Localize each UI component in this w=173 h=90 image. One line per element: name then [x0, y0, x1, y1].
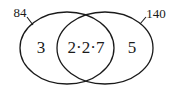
- set-label-left: 84: [14, 5, 28, 20]
- set-label-right: 140: [146, 6, 166, 21]
- region-intersection: 2·2·7: [68, 38, 105, 57]
- venn-diagram: 84 140 3 2·2·7 5: [0, 0, 173, 90]
- venn-svg: 84 140 3 2·2·7 5: [0, 0, 173, 90]
- leader-line-right: [140, 17, 146, 24]
- region-left-only: 3: [37, 38, 46, 57]
- leader-line-left: [27, 17, 33, 25]
- region-right-only: 5: [128, 38, 137, 57]
